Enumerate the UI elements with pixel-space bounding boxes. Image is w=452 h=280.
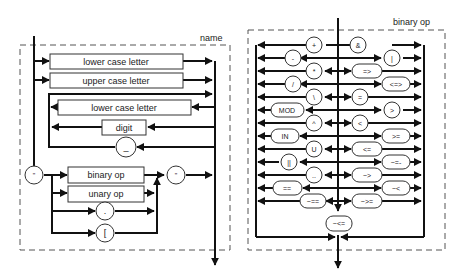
name-diagram-title: name xyxy=(200,33,223,43)
op-not-eqeq-label: ~== xyxy=(307,198,319,205)
op-ne-label: ~=- xyxy=(391,159,402,166)
op-times-label: * xyxy=(313,68,316,75)
op-lt-label: < xyxy=(358,120,362,127)
syntax-diagrams: name xyxy=(0,0,452,280)
lower-case-letter-label-2: lower case letter xyxy=(91,103,157,113)
op-mod-label: MOD xyxy=(279,107,295,114)
op-not-le-label: ~<= xyxy=(333,220,345,227)
digit-label: digit xyxy=(116,123,133,133)
op-union-label: U xyxy=(311,146,316,153)
op-range-label: .. xyxy=(312,172,316,179)
op-not-ge-label: ~>= xyxy=(361,198,373,205)
op-not-gt-label: ~> xyxy=(363,172,371,179)
op-backslash-label: \ xyxy=(313,94,315,101)
op-and-label: & xyxy=(356,42,361,49)
op-implies-label: => xyxy=(363,68,371,75)
underscore-label: _ xyxy=(122,142,129,152)
op-ge-label: >= xyxy=(392,133,400,140)
lower-case-letter-label-1: lower case letter xyxy=(83,57,149,67)
upper-case-letter-label: upper case letter xyxy=(82,76,149,86)
name-diagram: name xyxy=(20,33,230,265)
binary-op-diagram-title: binary op xyxy=(393,17,430,27)
op-concat-label: || xyxy=(287,159,291,167)
unary-op-label: unary op xyxy=(88,189,123,199)
op-le-label: <= xyxy=(363,146,371,153)
dot-label: . xyxy=(104,206,107,216)
binary-op-label: binary op xyxy=(87,170,124,180)
op-slash-label: / xyxy=(292,81,294,88)
op-plus-label: + xyxy=(312,42,316,49)
op-eqeq-label: == xyxy=(283,185,291,192)
op-not-lt-label: ~< xyxy=(392,185,400,192)
op-gt-label: > xyxy=(390,107,394,114)
op-eq-label: = xyxy=(358,94,362,101)
binary-op-diagram: binary op xyxy=(248,17,445,268)
op-iff-label: <=> xyxy=(390,81,402,88)
op-or-label: | xyxy=(391,55,393,63)
binary-op-rows xyxy=(258,45,421,201)
op-in-label: IN xyxy=(282,133,289,140)
